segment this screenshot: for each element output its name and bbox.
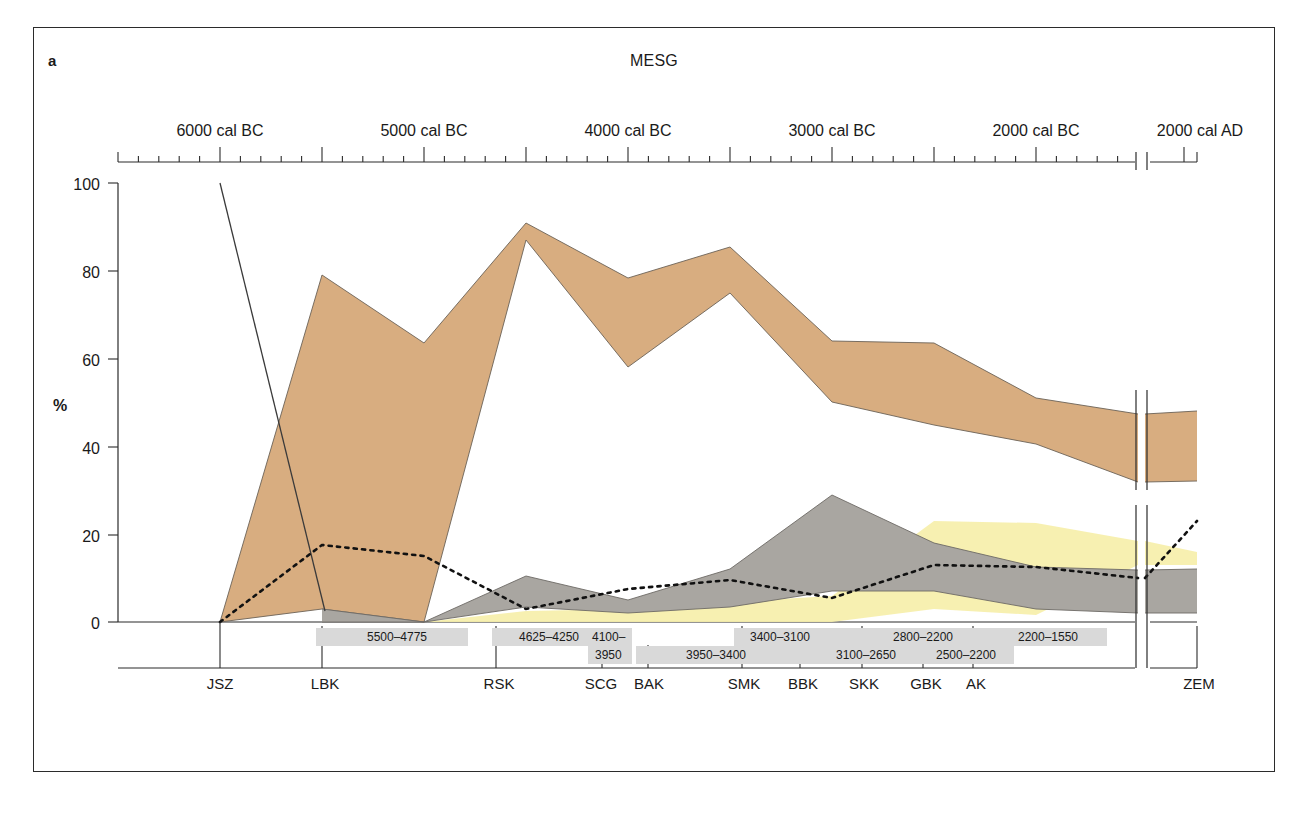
culture-label-scg: SCG	[585, 675, 618, 692]
brown-band-area-right	[1145, 411, 1197, 482]
y-axis: 100 80 60 40 20 0 %	[53, 176, 118, 632]
range-label-skk: 2800–2200	[893, 630, 953, 644]
top-axis-tick-label: 4000 cal BC	[584, 122, 671, 139]
range-label-rsk: 4625–4250	[519, 630, 579, 644]
culture-label-jsz: JSZ	[207, 675, 234, 692]
top-axis-tick-labels: 6000 cal BC 5000 cal BC 4000 cal BC 3000…	[176, 122, 1243, 139]
date-range-boxes: 5500–4775 4625–4250 4100– 3950 3950–3400…	[316, 628, 1107, 664]
top-axis-break	[1136, 152, 1147, 170]
culture-label-bbk: BBK	[788, 675, 818, 692]
y-axis-tick-label: 20	[82, 528, 100, 545]
culture-label-zem: ZEM	[1183, 675, 1215, 692]
top-axis-tick-label: 6000 cal BC	[176, 122, 263, 139]
y-axis-ticks	[108, 183, 118, 622]
culture-label-ak: AK	[966, 675, 986, 692]
chart-canvas: 6000 cal BC 5000 cal BC 4000 cal BC 3000…	[0, 0, 1308, 820]
top-axis-tick-label: 5000 cal BC	[380, 122, 467, 139]
culture-labels: JSZ LBK RSK SCG BAK SMK BBK SKK GBK AK Z…	[207, 675, 1215, 692]
culture-label-gbk: GBK	[910, 675, 942, 692]
top-axis-tick-label: 2000 cal AD	[1157, 122, 1243, 139]
range-label-lbk: 5500–4775	[367, 630, 427, 644]
culture-label-skk: SKK	[849, 675, 879, 692]
range-label-bbk: 3100–2650	[836, 648, 896, 662]
top-axis-major-ticks	[220, 147, 1184, 162]
range-label-ak: 2200–1550	[1018, 630, 1078, 644]
yellow-band-area-right	[1145, 541, 1197, 565]
top-time-axis: 6000 cal BC 5000 cal BC 4000 cal BC 3000…	[118, 122, 1243, 170]
range-label-scg-line1: 4100–	[592, 630, 626, 644]
y-axis-tick-label: 80	[82, 264, 100, 281]
figure-panel: a MESG	[0, 0, 1308, 820]
top-axis-tick-label: 2000 cal BC	[992, 122, 1079, 139]
y-axis-tick-label: 0	[91, 615, 100, 632]
y-axis-label: %	[53, 397, 67, 414]
culture-label-rsk: RSK	[484, 675, 515, 692]
gray-band-area-right	[1145, 569, 1197, 613]
y-axis-tick-label: 40	[82, 440, 100, 457]
top-axis-tick-label: 3000 cal BC	[788, 122, 875, 139]
range-label-bak: 3950–3400	[686, 648, 746, 662]
range-label-gbk: 2500–2200	[936, 648, 996, 662]
culture-label-bak: BAK	[634, 675, 664, 692]
y-axis-tick-label: 60	[82, 352, 100, 369]
range-label-smk: 3400–3100	[750, 630, 810, 644]
range-label-scg-line2: 3950	[595, 648, 622, 662]
culture-label-lbk: LBK	[311, 675, 339, 692]
culture-label-smk: SMK	[728, 675, 761, 692]
y-axis-tick-label: 100	[73, 176, 100, 193]
